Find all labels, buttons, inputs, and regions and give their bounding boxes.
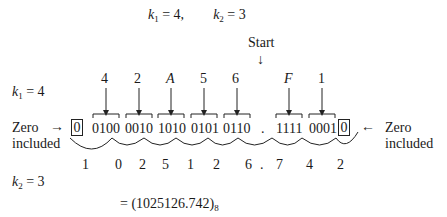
binary-group: 0101 bbox=[191, 122, 219, 136]
result-base: 8 bbox=[214, 203, 219, 213]
octal-digit: 6 bbox=[245, 158, 252, 172]
octal-radix-point: . bbox=[260, 158, 264, 172]
octal-digit: 2 bbox=[213, 158, 220, 172]
left-note-line1: Zero bbox=[12, 121, 38, 135]
octal-digit: 0 bbox=[115, 158, 122, 172]
binary-group: 0001 bbox=[309, 122, 337, 136]
octal-digit: 7 bbox=[276, 158, 283, 172]
octal-digit: 1 bbox=[82, 158, 89, 172]
left-note-line2: included bbox=[12, 137, 60, 151]
octal-result: = (1025126.742)8 bbox=[120, 197, 219, 211]
right-zero-box: 0 bbox=[338, 119, 350, 136]
result-value: = (1025126.742) bbox=[120, 196, 214, 211]
octal-digit: 2 bbox=[337, 158, 344, 172]
left-arrow-icon: ← bbox=[361, 120, 375, 134]
binary-group: 0010 bbox=[125, 122, 153, 136]
left-zero-box: 0 bbox=[71, 119, 83, 136]
right-arrow-icon: → bbox=[50, 120, 64, 134]
octal-digit: 1 bbox=[187, 158, 194, 172]
binary-group: 1010 bbox=[158, 122, 186, 136]
binary-group: 0100 bbox=[92, 122, 120, 136]
radix-point: . bbox=[261, 122, 265, 136]
octal-digit: 5 bbox=[162, 158, 169, 172]
hex-to-binary-arrows-and-octal-arcs bbox=[0, 0, 447, 217]
binary-group: 0110 bbox=[223, 122, 250, 136]
k2-row-value: = 3 bbox=[23, 174, 45, 189]
right-note-line1: Zero bbox=[385, 121, 411, 135]
octal-digit: 2 bbox=[139, 158, 146, 172]
binary-group: 1111 bbox=[276, 122, 302, 136]
right-note-line2: included bbox=[385, 137, 433, 151]
octal-digit: 4 bbox=[306, 158, 313, 172]
k2-row-label: k2 = 3 bbox=[12, 175, 45, 189]
